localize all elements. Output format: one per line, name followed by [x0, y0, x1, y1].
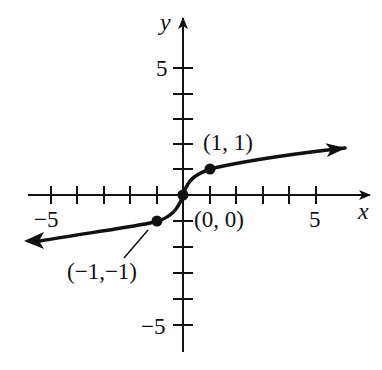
point-label-neg: (−1,−1) — [67, 259, 137, 284]
x-tick-label-5: 5 — [309, 207, 321, 232]
x-tick-label-neg5: −5 — [34, 207, 58, 232]
point-origin — [178, 190, 189, 201]
y-tick-label-5: 5 — [156, 56, 168, 81]
cube-root-graph: −5 5 5 −5 x y (−1,−1) (0, 0) (1, 1) — [0, 0, 382, 370]
x-axis-label: x — [357, 198, 369, 224]
point-1-1 — [205, 164, 216, 175]
point-label-origin: (0, 0) — [194, 207, 244, 232]
point-label-pos: (1, 1) — [203, 130, 253, 155]
y-axis-label: y — [158, 9, 171, 35]
point-neg1-neg1 — [152, 216, 163, 227]
y-tick-label-neg5: −5 — [141, 314, 165, 339]
leader-line — [124, 230, 148, 258]
